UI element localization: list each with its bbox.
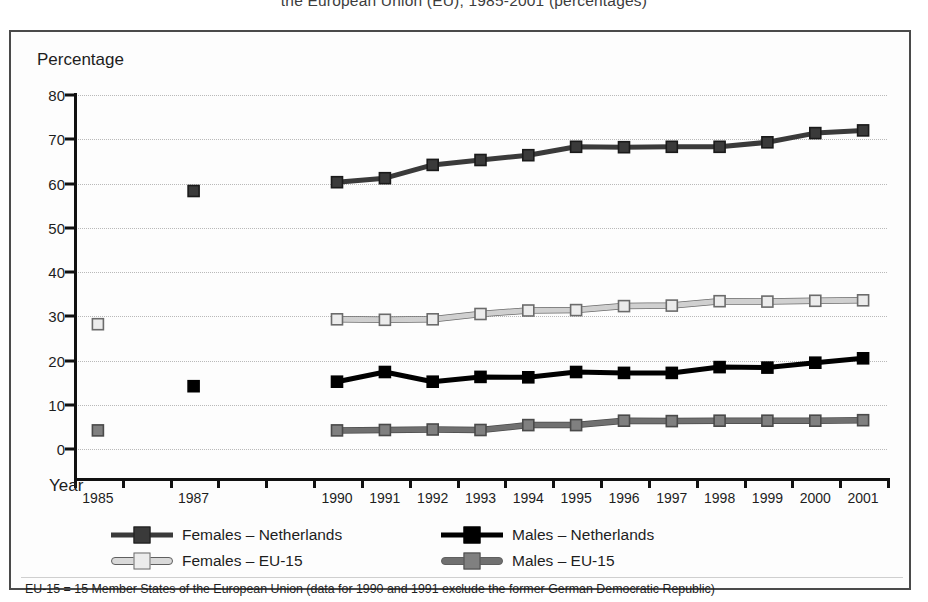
y-tick-label: 10 (48, 396, 65, 413)
data-point-marker (379, 367, 390, 378)
y-tick-mark (65, 94, 74, 97)
y-tick-mark (65, 403, 74, 406)
data-point-marker (714, 362, 725, 373)
data-point-marker (714, 296, 725, 307)
data-point-marker (858, 353, 869, 364)
y-tick-label: 20 (48, 352, 65, 369)
x-axis-title: Year (49, 476, 83, 496)
legend-entry[interactable]: Females – Netherlands (111, 526, 342, 544)
figure-inner: Percentage 01020304050607080 19851987199… (11, 32, 909, 588)
x-tick-label: 1992 (417, 490, 448, 506)
data-point-marker (379, 173, 390, 184)
x-tick-label: 1995 (561, 490, 592, 506)
data-point-marker (619, 142, 630, 153)
x-tick-mark (409, 478, 412, 488)
x-tick-label: 1999 (752, 490, 783, 506)
data-point-marker (858, 125, 869, 136)
x-tick-label: 1987 (178, 490, 209, 506)
series-4 (92, 415, 868, 436)
data-point-marker (332, 314, 343, 325)
legend-label: Males – EU-15 (512, 552, 615, 570)
data-point-marker (427, 314, 438, 325)
series-3 (92, 295, 868, 330)
data-point-marker (619, 301, 630, 312)
data-point-marker (666, 300, 677, 311)
y-tick-label: 40 (48, 264, 65, 281)
data-point-marker (714, 415, 725, 426)
y-tick-mark (65, 226, 74, 229)
legend-entry[interactable]: Females – EU-15 (111, 552, 303, 570)
x-tick-mark (744, 478, 747, 488)
x-tick-label: 1998 (704, 490, 735, 506)
x-tick-mark (122, 478, 125, 488)
legend-entry[interactable]: Males – EU-15 (441, 552, 615, 570)
data-point-marker (762, 362, 773, 373)
legend-marker-icon (441, 553, 503, 569)
data-point-marker (666, 416, 677, 427)
y-axis-line (74, 93, 77, 481)
data-point-marker (762, 137, 773, 148)
y-tick-label: 60 (48, 175, 65, 192)
legend-marker-icon (111, 553, 173, 569)
data-point-marker (523, 372, 534, 383)
data-point-marker (379, 314, 390, 325)
data-point-marker (427, 159, 438, 170)
data-point-marker (427, 376, 438, 387)
x-tick-mark (791, 478, 794, 488)
legend-marker-icon (441, 527, 503, 543)
data-point-marker (619, 415, 630, 426)
data-point-marker (810, 357, 821, 368)
legend-label: Females – EU-15 (182, 552, 303, 570)
x-axis-ticks: 1985198719901991199219931994199519961997… (74, 478, 889, 512)
data-point-marker (666, 141, 677, 152)
data-point-marker (92, 319, 103, 330)
x-tick-mark (170, 478, 173, 488)
data-point-marker (475, 155, 486, 166)
x-tick-label: 1997 (656, 490, 687, 506)
legend-marker-icon (111, 527, 173, 543)
data-point-marker (762, 415, 773, 426)
x-tick-mark (217, 478, 220, 488)
y-tick-mark (65, 359, 74, 362)
x-tick-label: 1996 (608, 490, 639, 506)
data-point-marker (571, 420, 582, 431)
footnote-divider (21, 577, 903, 578)
x-tick-label: 2000 (800, 490, 831, 506)
y-tick-label: 0 (57, 441, 65, 458)
y-tick-mark (65, 315, 74, 318)
legend-entry[interactable]: Males – Netherlands (441, 526, 654, 544)
data-point-marker (619, 367, 630, 378)
data-point-marker (427, 424, 438, 435)
data-point-marker (379, 425, 390, 436)
data-point-marker (475, 309, 486, 320)
y-tick-label: 50 (48, 219, 65, 236)
data-point-marker (332, 425, 343, 436)
series-1 (188, 125, 869, 197)
x-tick-mark (887, 478, 890, 488)
figure-title: the European Union (EU), 1985-2001 (perc… (0, 0, 928, 14)
x-tick-mark (504, 478, 507, 488)
y-tick-mark (65, 448, 74, 451)
x-tick-label: 1994 (513, 490, 544, 506)
x-tick-mark (552, 478, 555, 488)
x-tick-mark (839, 478, 842, 488)
y-tick-mark (65, 138, 74, 141)
data-point-marker (762, 296, 773, 307)
x-tick-mark (457, 478, 460, 488)
data-point-marker (810, 128, 821, 139)
x-tick-label: 1991 (369, 490, 400, 506)
data-point-marker (332, 177, 343, 188)
data-point-marker (858, 295, 869, 306)
y-tick-label: 70 (48, 131, 65, 148)
data-point-marker (188, 381, 199, 392)
y-tick-label: 80 (48, 87, 65, 104)
x-tick-mark (696, 478, 699, 488)
data-point-marker (92, 425, 103, 436)
x-tick-mark (313, 478, 316, 488)
y-tick-label: 30 (48, 308, 65, 325)
x-tick-mark (600, 478, 603, 488)
data-point-marker (810, 415, 821, 426)
data-point-marker (523, 305, 534, 316)
series-2 (188, 353, 869, 392)
plot-area: 01020304050607080 (74, 95, 887, 449)
